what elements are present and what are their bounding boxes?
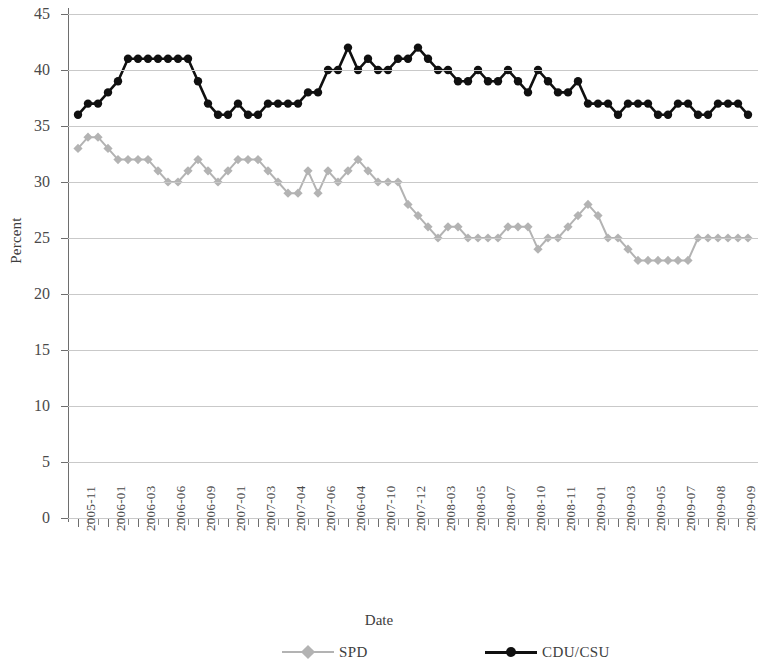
x-tick-label-2007-01: 2007-01 [233, 486, 249, 531]
x-tick-mark-9 [168, 519, 169, 527]
data-point [514, 77, 522, 85]
gridline-45 [68, 14, 758, 15]
x-tick-label-2008-03: 2008-03 [443, 486, 459, 531]
x-tick-label-2008-10: 2008-10 [533, 486, 549, 531]
x-tick-label-2009-09: 2009-09 [743, 486, 758, 531]
data-point [84, 99, 92, 107]
data-point [394, 55, 402, 63]
y-tick-mark-45 [61, 14, 68, 15]
x-tick-mark-45 [528, 519, 529, 527]
data-point [564, 88, 572, 96]
cdu-csu-line-marker-icon [485, 645, 537, 659]
x-tick-mark-0 [78, 519, 79, 527]
data-point [644, 99, 652, 107]
series-line [78, 137, 748, 260]
data-point [643, 256, 652, 265]
data-point [154, 55, 162, 63]
x-tick-label-2009-01: 2009-01 [593, 486, 609, 531]
data-point [594, 99, 602, 107]
x-tick-mark-12 [198, 519, 199, 527]
x-tick-label-2009-08: 2009-08 [713, 486, 729, 531]
spd-line-marker-icon [282, 645, 334, 659]
x-tick-mark-39 [468, 519, 469, 527]
series-layer [68, 14, 758, 518]
data-point [574, 77, 582, 85]
gridline-5 [68, 462, 758, 463]
gridline-30 [68, 182, 758, 183]
data-point [604, 99, 612, 107]
data-point [224, 111, 232, 119]
x-tick-mark-51 [588, 519, 589, 527]
x-tick-label-2009-03: 2009-03 [623, 486, 639, 531]
gridline-20 [68, 294, 758, 295]
data-point [314, 88, 322, 96]
gridline-25 [68, 238, 758, 239]
x-tick-label-2005-11: 2005-11 [83, 486, 99, 531]
x-tick-mark-60 [678, 519, 679, 527]
data-point [494, 77, 502, 85]
y-tick-label-20: 20 [16, 286, 50, 302]
x-tick-label-2006-01: 2006-01 [113, 486, 129, 531]
legend-label-spd: SPD [339, 644, 368, 661]
x-tick-mark-24 [318, 519, 319, 527]
y-tick-label-25: 25 [16, 230, 50, 246]
data-point [94, 99, 102, 107]
y-tick-label-10: 10 [16, 398, 50, 414]
x-tick-label-2008-11: 2008-11 [563, 486, 579, 531]
data-point [484, 77, 492, 85]
x-tick-mark-66 [738, 519, 739, 527]
data-point [124, 55, 132, 63]
data-point [674, 99, 682, 107]
y-tick-mark-40 [61, 70, 68, 71]
x-tick-mark-42 [498, 519, 499, 527]
data-point [304, 88, 312, 96]
data-point [734, 99, 742, 107]
data-point [454, 77, 462, 85]
y-tick-label-5: 5 [16, 454, 50, 470]
data-point [663, 256, 672, 265]
x-tick-mark-57 [648, 519, 649, 527]
x-tick-mark-21 [288, 519, 289, 527]
y-tick-label-45: 45 [16, 6, 50, 22]
data-point [244, 111, 252, 119]
data-point [194, 77, 202, 85]
y-tick-mark-35 [61, 126, 68, 127]
legend-entry-spd: SPD [282, 641, 368, 663]
data-point [464, 77, 472, 85]
data-point [313, 189, 322, 198]
gridline-40 [68, 70, 758, 71]
data-point [513, 222, 522, 231]
x-tick-label-2006-06: 2006-06 [173, 486, 189, 531]
data-point [114, 77, 122, 85]
data-point [204, 99, 212, 107]
data-point [294, 99, 302, 107]
x-tick-mark-36 [438, 519, 439, 527]
poll-trend-chart: Percent 454035302520151050 2005-112006-0… [0, 0, 758, 663]
x-tick-mark-15 [228, 519, 229, 527]
y-tick-mark-20 [61, 294, 68, 295]
x-tick-label-2007-04: 2007-04 [293, 486, 309, 531]
gridline-15 [68, 350, 758, 351]
data-point [684, 99, 692, 107]
data-point [164, 55, 172, 63]
data-point [683, 256, 692, 265]
data-point [523, 222, 532, 231]
x-tick-mark-33 [408, 519, 409, 527]
x-tick-label-2006-04: 2006-04 [353, 486, 369, 531]
data-point [104, 88, 112, 96]
gridline-10 [68, 406, 758, 407]
data-point [554, 88, 562, 96]
series-cdu-csu [74, 43, 752, 119]
x-tick-label-2007-10: 2007-10 [383, 486, 399, 531]
data-point [243, 155, 252, 164]
plot-area [68, 14, 758, 518]
y-tick-mark-10 [61, 406, 68, 407]
data-point [653, 256, 662, 265]
data-point [694, 111, 702, 119]
y-tick-label-40: 40 [16, 62, 50, 78]
x-tick-label-2008-05: 2008-05 [473, 486, 489, 531]
data-point [634, 99, 642, 107]
data-point [274, 99, 282, 107]
data-point [424, 55, 432, 63]
x-tick-mark-18 [258, 519, 259, 527]
